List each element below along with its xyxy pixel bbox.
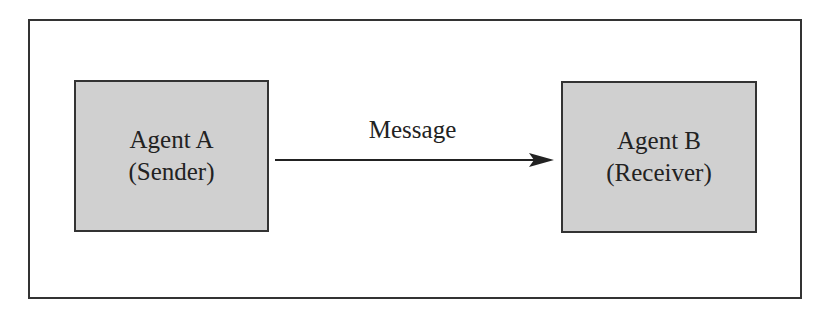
message-arrow [0, 0, 821, 315]
